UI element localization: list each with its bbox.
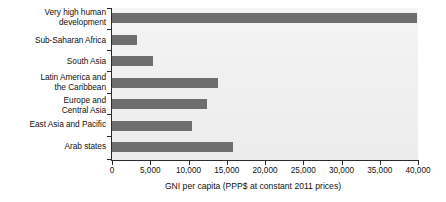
bar-europe-and-central-asia: [112, 99, 207, 109]
x-axis-tick: [227, 161, 228, 165]
bar-latin-america-and-the-caribbean: [112, 78, 218, 88]
y-axis-tick: [107, 71, 111, 72]
x-axis-tick-label: 20,000: [252, 166, 277, 176]
x-axis-tick-label: 25,000: [291, 166, 316, 176]
x-axis-tick: [112, 161, 113, 165]
category-label-latin-america-and-the-caribbean: Latin America and the Caribbean: [0, 73, 106, 92]
y-axis-tick: [107, 50, 111, 51]
x-axis-tick: [380, 161, 381, 165]
x-axis-tick: [189, 161, 190, 165]
x-axis-title: GNI per capita (PPP$ at constant 2011 pr…: [0, 181, 446, 191]
bar-very-high-human-development: [112, 13, 417, 23]
x-axis-tick-label: 40,000: [405, 166, 430, 176]
y-axis-tick: [107, 114, 111, 115]
plot-area: [112, 8, 418, 160]
category-axis-labels: Very high human development Sub-Saharan …: [0, 8, 106, 160]
bar-arab-states: [112, 142, 233, 152]
category-label-east-asia-and-pacific: East Asia and Pacific: [0, 120, 106, 130]
x-axis-tick-label: 35,000: [367, 166, 392, 176]
y-axis-tick: [107, 159, 111, 160]
x-axis-tick-label: 5,000: [140, 166, 161, 176]
bar-south-asia: [112, 56, 153, 66]
x-axis-tick: [303, 161, 304, 165]
y-axis-tick: [107, 29, 111, 30]
x-axis-tick-label: 0: [110, 166, 115, 176]
y-axis-tick: [107, 93, 111, 94]
x-axis-tick-label: 30,000: [329, 166, 354, 176]
category-label-europe-and-central-asia: Europe and Central Asia: [0, 96, 106, 115]
x-axis-tick-label: 10,000: [176, 166, 201, 176]
category-label-arab-states: Arab states: [0, 142, 106, 152]
bar-sub-saharan-africa: [112, 35, 137, 45]
category-label-very-high-human-development: Very high human development: [0, 8, 106, 27]
bar-east-asia-and-pacific: [112, 121, 192, 131]
x-axis-title-text: GNI per capita (PPP$ at constant 2011 pr…: [105, 181, 341, 191]
y-axis-line: [111, 8, 112, 160]
x-axis-tick-label: 15,000: [214, 166, 239, 176]
x-axis-tick: [342, 161, 343, 165]
y-axis-tick: [107, 8, 111, 9]
category-label-sub-saharan-africa: Sub-Saharan Africa: [0, 36, 106, 46]
x-axis-tick: [265, 161, 266, 165]
x-axis-tick: [150, 161, 151, 165]
x-axis-tick: [418, 161, 419, 165]
y-axis-tick: [107, 136, 111, 137]
category-label-south-asia: South Asia: [0, 57, 106, 67]
bar-chart: Very high human development Sub-Saharan …: [0, 0, 446, 202]
